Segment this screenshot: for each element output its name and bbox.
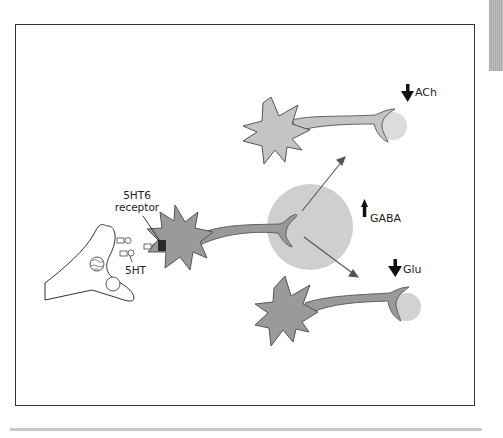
serotonin-label: 5HT [125, 264, 147, 276]
glu-down-arrow-icon [388, 259, 402, 277]
ach-label: ACh [415, 86, 437, 99]
ach-down-arrow-icon [401, 84, 414, 102]
serotonergic-neuron [45, 225, 134, 302]
ach-neuron [243, 97, 407, 164]
5ht6-receptor [158, 240, 166, 251]
gaba-neuron [143, 184, 353, 270]
receptor-label-line1: 5HT6 [123, 189, 151, 201]
gaba-label: GABA [370, 212, 402, 225]
glu-label: Glu [403, 263, 422, 276]
receptor-label-line2: receptor [115, 201, 160, 213]
neuron-diagram: 5HT6 receptor 5HT GABA ACh Glu [0, 0, 503, 438]
vesicle-icon [106, 277, 120, 291]
gaba-up-arrow-icon [361, 199, 368, 217]
glu-neuron [255, 276, 421, 346]
